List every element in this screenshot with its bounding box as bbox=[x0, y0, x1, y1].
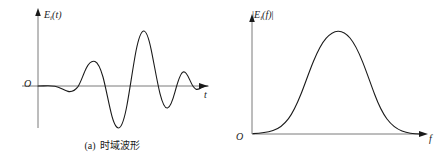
caption-text-a: 时域波形 bbox=[100, 140, 140, 151]
panel-time-domain: Ei(t) O t (a)时域波形 bbox=[0, 0, 224, 162]
figure-root: Ei(t) O t (a)时域波形 |Ei(f)| O bbox=[0, 0, 448, 162]
y-axis-arrow-icon bbox=[35, 8, 41, 16]
panel-frequency-spectrum: |Ei(f)| O f (b)频谱 bbox=[224, 0, 448, 162]
origin-label-time: O bbox=[24, 79, 31, 89]
origin-label-spectrum: O bbox=[236, 132, 243, 142]
y-axis-label-close-b: | bbox=[272, 9, 274, 20]
y-axis-label-spectrum: |Ei(f)| bbox=[252, 10, 274, 22]
y-axis-label-arg-a: (t) bbox=[52, 9, 61, 20]
x-axis-label-spectrum: f bbox=[429, 134, 432, 144]
y-axis-label-arg-b: (f) bbox=[262, 9, 271, 20]
caption-panel-a: (a)时域波形 bbox=[0, 140, 224, 151]
x-axis-label-time: t bbox=[204, 90, 207, 100]
spectrum-curve bbox=[253, 31, 420, 134]
caption-tag-a: (a) bbox=[84, 140, 95, 151]
waveform-curve bbox=[38, 31, 208, 128]
time-domain-plot bbox=[0, 0, 224, 140]
y-axis-label-time: Ei(t) bbox=[44, 10, 62, 22]
